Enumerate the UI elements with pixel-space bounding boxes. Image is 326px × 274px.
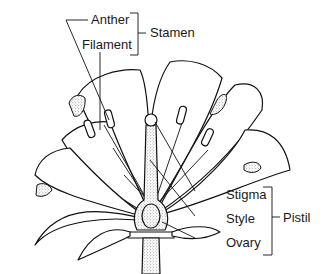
ovary-label: Ovary xyxy=(226,236,261,250)
stamen-label: Stamen xyxy=(150,26,195,40)
style-label: Style xyxy=(226,212,255,226)
stigma-label: Stigma xyxy=(226,188,266,202)
anther-label: Anther xyxy=(91,13,129,27)
flower-illustration xyxy=(0,0,326,274)
flower-diagram: Anther Filament Stamen Stigma Style Ovar… xyxy=(0,0,326,274)
pistil-label: Pistil xyxy=(283,211,310,225)
stigma-head xyxy=(145,114,157,126)
filament-label: Filament xyxy=(82,38,132,52)
